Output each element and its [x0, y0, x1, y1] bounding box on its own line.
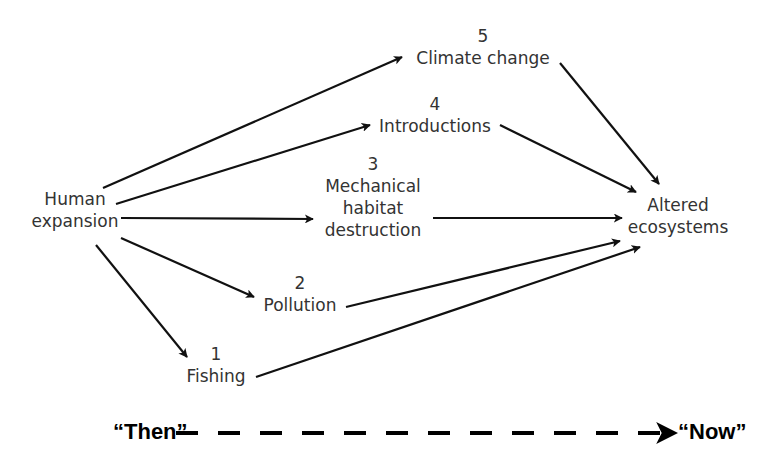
node-number: 4 — [372, 93, 498, 115]
node-human-expansion: Human expansion — [22, 188, 128, 232]
arrow-pollution-to-altered — [346, 241, 620, 307]
node-label: destruction — [313, 219, 433, 241]
node-climate-change: 5 Climate change — [408, 25, 558, 69]
node-line: ecosystems — [622, 216, 734, 238]
arrow-expansion-to-mechanical — [121, 218, 313, 219]
node-mechanical-habitat-destruction: 3 Mechanical habitat destruction — [313, 153, 433, 241]
node-number: 3 — [313, 153, 433, 175]
node-line: Altered — [622, 194, 734, 216]
node-label: Pollution — [255, 294, 345, 316]
node-fishing: 1 Fishing — [180, 343, 252, 387]
node-number: 1 — [180, 343, 252, 365]
node-number: 2 — [255, 272, 345, 294]
node-label: Fishing — [180, 365, 252, 387]
node-introductions: 4 Introductions — [372, 93, 498, 137]
timeline-start-label: “Then” — [113, 419, 188, 445]
arrow-expansion-to-pollution — [121, 238, 254, 297]
arrow-climate-to-altered — [560, 63, 659, 184]
node-label: Climate change — [408, 47, 558, 69]
node-pollution: 2 Pollution — [255, 272, 345, 316]
node-number: 5 — [408, 25, 558, 47]
node-line: Human — [22, 188, 128, 210]
node-label: habitat — [313, 197, 433, 219]
node-altered-ecosystems: Altered ecosystems — [622, 194, 734, 238]
node-label: Introductions — [372, 115, 498, 137]
node-line: expansion — [22, 210, 128, 232]
node-label: Mechanical — [313, 175, 433, 197]
timeline-end-label: “Now” — [678, 419, 746, 445]
arrow-introductions-to-altered — [500, 125, 636, 192]
